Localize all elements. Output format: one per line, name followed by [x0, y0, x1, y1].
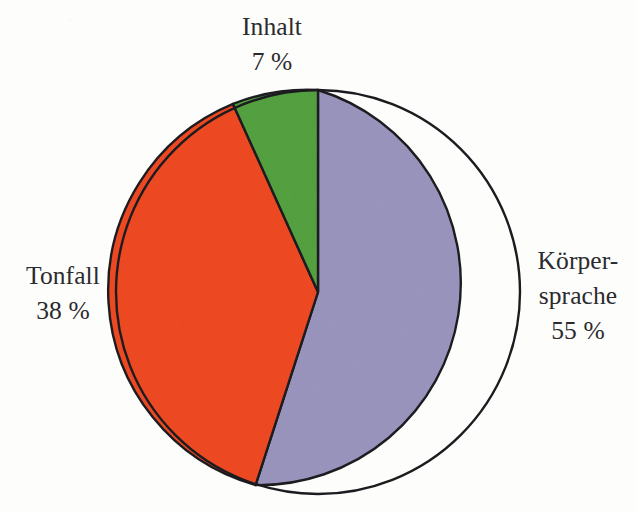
pie-label-inhalt: Inhalt 7 % — [182, 9, 362, 79]
pie-label-koerpersprache: Körper- sprache 55 % — [520, 243, 636, 348]
pie-label-tonfall-name: Tonfall — [2, 258, 124, 293]
pie-label-tonfall-value: 38 % — [2, 293, 124, 328]
pie-label-koerpersprache-name-line2: sprache — [520, 278, 636, 313]
pie-label-inhalt-value: 7 % — [182, 44, 362, 79]
pie-chart-figure: Inhalt 7 % Tonfall 38 % Körper- sprache … — [0, 0, 636, 512]
pie-label-inhalt-name: Inhalt — [182, 9, 362, 44]
pie-label-tonfall: Tonfall 38 % — [2, 258, 124, 328]
pie-label-koerpersprache-value: 55 % — [520, 313, 636, 348]
pie-label-koerpersprache-name-line1: Körper- — [520, 243, 636, 278]
